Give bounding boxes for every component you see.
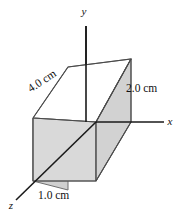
z-axis-label: z: [8, 199, 14, 211]
figure-canvas: y x z 4.0 cm 2.0 cm 1.0 cm: [0, 0, 179, 215]
physics-figure-box-with-axes: y x z 4.0 cm 2.0 cm 1.0 cm: [0, 0, 179, 215]
x-axis-label: x: [167, 115, 173, 127]
dimension-label-height: 2.0 cm: [126, 82, 157, 94]
box-face-front-near: [33, 118, 96, 181]
dimension-label-width: 1.0 cm: [38, 189, 69, 201]
y-axis-label: y: [81, 5, 87, 17]
